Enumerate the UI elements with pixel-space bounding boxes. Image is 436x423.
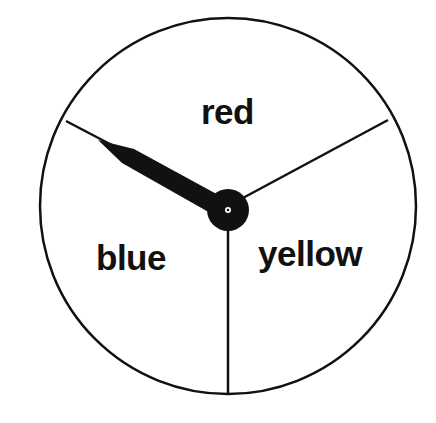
section-label-red: red — [201, 94, 254, 129]
section-label-blue: blue — [96, 240, 166, 275]
hub-pin-dot — [227, 209, 230, 212]
spinner-diagram — [0, 0, 436, 423]
section-label-yellow: yellow — [258, 236, 362, 271]
spinner-arrow[interactable] — [98, 140, 249, 231]
arrow-icon — [98, 140, 222, 214]
divider-red-yellow — [228, 120, 388, 206]
